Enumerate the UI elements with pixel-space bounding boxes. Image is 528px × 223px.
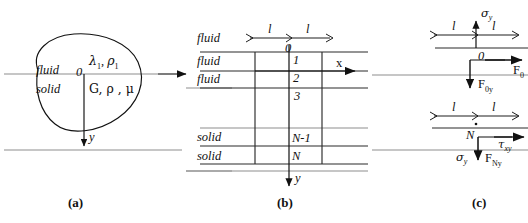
caption-a: (a) (68, 196, 83, 209)
rho-symbol: ρ (107, 53, 114, 68)
panel-a-upper-params: λ1, ρ1 (89, 55, 119, 71)
panel-b-node-N-1: N-1 (292, 132, 311, 145)
panel-c-top-node-0: 0 (478, 50, 484, 63)
sigma-subscript: y (489, 13, 493, 22)
panel-c-top-sigma: σy (481, 8, 492, 22)
lambda-symbol: λ (89, 53, 97, 68)
panel-b-node-3: 3 (294, 90, 300, 103)
panel-a-origin-label: 0 (76, 66, 82, 79)
sigma-subscript-bottom: y (464, 157, 468, 166)
panel-c-top-dim-left: l (452, 20, 455, 33)
sigma-symbol-bottom: σ (456, 150, 464, 164)
panel-c-bottom-FNy: FNy (485, 152, 502, 168)
panel-b-node-0: 0 (285, 42, 291, 55)
force-subscript-0: 0 (520, 71, 524, 80)
panel-b-dim-label-left: l (268, 23, 271, 36)
panel-c-bottom-sigma: σy (456, 152, 467, 166)
caption-b: (b) (277, 196, 293, 209)
force-symbol-FNy: F (485, 151, 492, 165)
panel-c-top-F0: F0 (513, 64, 524, 80)
panel-b-row-label-3: solid (197, 131, 221, 144)
tau-subscript: xy (504, 144, 511, 153)
force-symbol-F0y: F (478, 77, 485, 91)
force-symbol-F0: F (513, 63, 520, 77)
panel-b-row-label-4: solid (197, 150, 221, 163)
panel-c-bottom-dim-left: l (452, 101, 455, 114)
panel-b-node-2: 2 (293, 72, 299, 85)
panel-a-fluid-label: fluid (36, 64, 59, 77)
force-subscript-0y: 0y (485, 85, 493, 94)
panel-a-lower-params: G, ρ , μ (89, 83, 134, 96)
panel-a-y-label: y (89, 131, 95, 144)
rho-subscript: 1 (115, 62, 119, 71)
panel-b-dim-label-right: l (306, 23, 309, 36)
figure-vector-layer (0, 0, 528, 223)
caption-c: (c) (472, 196, 486, 209)
panel-b-y-label: y (295, 172, 301, 185)
panel-b-x-label: x (336, 57, 342, 70)
panel-c-top-dim-right: l (492, 20, 495, 33)
panel-c-bottom-node-N: N (466, 129, 474, 142)
sigma-symbol: σ (481, 6, 489, 20)
panel-c-bottom-dim-right: l (492, 101, 495, 114)
panel-a-solid-label: solid (36, 83, 60, 96)
panel-c-node-N-dot (475, 123, 478, 126)
force-subscript-Ny: Ny (492, 159, 502, 168)
figure-container: fluid solid 0 λ1, ρ1 G, ρ , μ y l l flui… (0, 0, 528, 223)
panel-c-top-F0y: F0y (478, 78, 493, 94)
panel-b-node-1: 1 (293, 54, 299, 67)
panel-b-row-label-1: fluid (197, 55, 220, 68)
panel-b-node-N: N (292, 150, 300, 163)
panel-b-row-label-0: fluid (197, 32, 220, 45)
panel-b-row-label-2: fluid (197, 73, 220, 86)
